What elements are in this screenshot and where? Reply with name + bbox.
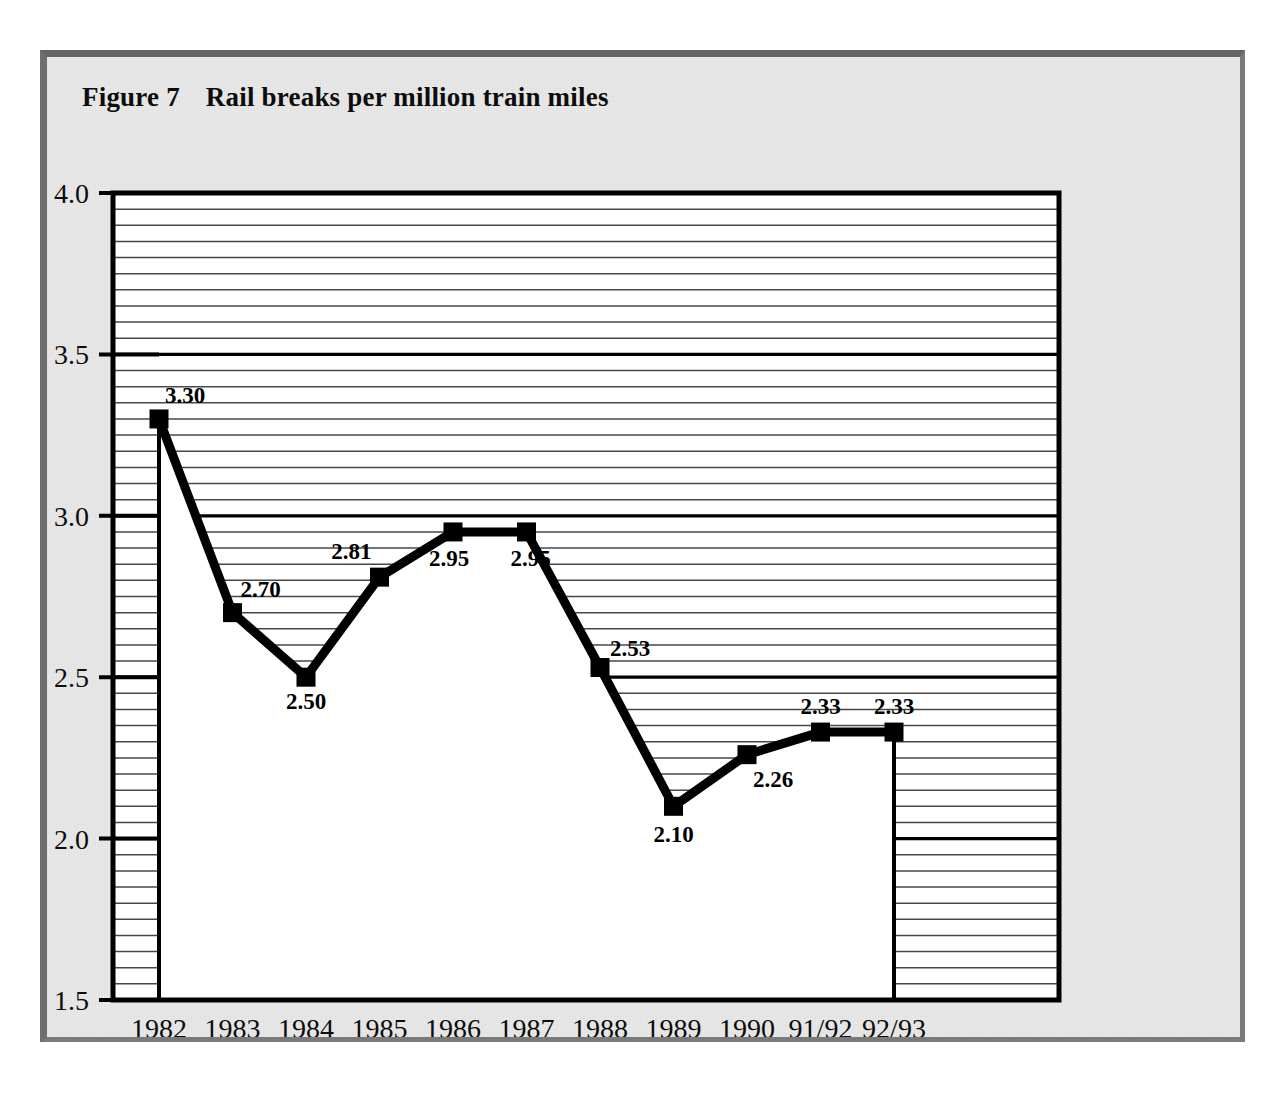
data-point-value-label: 2.95 — [510, 546, 550, 571]
x-axis-tick-label: 1986 — [425, 1013, 481, 1037]
x-axis-tick-label: 1983 — [205, 1013, 261, 1037]
data-point-marker — [517, 522, 536, 541]
data-point-value-label: 2.10 — [653, 822, 693, 847]
x-axis-tick-label: 1985 — [352, 1013, 408, 1037]
data-point-marker — [370, 568, 389, 587]
data-point-value-label: 2.50 — [286, 689, 326, 714]
data-point-marker — [885, 723, 904, 742]
data-point-marker — [738, 745, 757, 764]
y-axis-label-layer: 1.52.02.53.03.54.0 — [54, 178, 89, 1016]
data-point-marker — [297, 668, 316, 687]
y-axis-tick-label: 2.0 — [54, 824, 89, 855]
data-point-value-label: 2.53 — [610, 636, 650, 661]
data-point-marker — [444, 522, 463, 541]
data-point-marker — [811, 723, 830, 742]
data-point-marker — [591, 658, 610, 677]
data-point-value-label: 2.26 — [753, 767, 793, 792]
y-axis-tick-label: 2.5 — [54, 662, 89, 693]
x-axis-tick-label: 1987 — [499, 1013, 555, 1037]
data-point-value-label: 2.33 — [874, 694, 914, 719]
x-axis-tick-label: 91/92 — [789, 1013, 853, 1037]
figure-card: Figure 7Rail breaks per million train mi… — [40, 50, 1245, 1042]
data-point-value-label: 2.95 — [429, 546, 469, 571]
y-axis-tick-label: 3.0 — [54, 501, 89, 532]
x-axis-tick-label: 1989 — [646, 1013, 702, 1037]
data-point-marker — [223, 603, 242, 622]
data-point-marker — [150, 409, 169, 428]
data-point-value-label: 3.30 — [165, 383, 205, 408]
x-axis-tick-label: 1984 — [278, 1013, 334, 1037]
data-point-marker — [664, 797, 683, 816]
rail-breaks-line-chart: 1.52.02.53.03.54.0 198219831984198519861… — [47, 57, 1240, 1037]
data-point-value-label: 2.33 — [800, 694, 840, 719]
x-axis-tick-label: 92/93 — [862, 1013, 926, 1037]
data-point-value-label: 2.81 — [331, 539, 371, 564]
x-axis-tick-label: 1988 — [572, 1013, 628, 1037]
y-axis-tick-label: 1.5 — [54, 985, 89, 1016]
y-axis-tick-label: 4.0 — [54, 178, 89, 209]
x-axis-tick-label: 1990 — [719, 1013, 775, 1037]
x-axis-label-layer: 19821983198419851986198719881989199091/9… — [131, 1013, 926, 1037]
x-axis-tick-label: 1982 — [131, 1013, 187, 1037]
y-axis-tick-label: 3.5 — [54, 339, 89, 370]
data-point-value-label: 2.70 — [241, 577, 281, 602]
